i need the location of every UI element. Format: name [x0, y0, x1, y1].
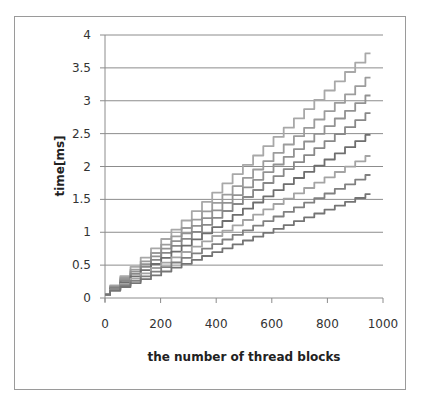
series-line [105, 78, 371, 295]
y-tick-label: 3.5 [72, 61, 91, 75]
x-tick-label: 400 [205, 317, 228, 331]
y-axis-ticks: 00.511.522.533.54 [72, 28, 91, 305]
series-line [105, 156, 371, 295]
series-line [105, 53, 371, 294]
line-chart: 00.511.522.533.54 02004006008001000 time… [0, 0, 432, 407]
series-line [105, 113, 371, 295]
x-tick-label: 0 [101, 317, 109, 331]
gridlines [100, 35, 383, 303]
y-tick-label: 1.5 [72, 192, 91, 206]
y-tick-label: 2 [83, 160, 91, 174]
x-axis-label: the number of thread blocks [147, 350, 340, 364]
y-tick-label: 4 [83, 28, 91, 42]
y-tick-label: 1 [83, 225, 91, 239]
y-tick-label: 0 [83, 291, 91, 305]
x-tick-label: 600 [260, 317, 283, 331]
series-line [105, 135, 371, 295]
x-tick-label: 1000 [368, 317, 399, 331]
series-line [105, 175, 371, 295]
series-line [105, 194, 371, 295]
y-tick-label: 3 [83, 94, 91, 108]
data-series [105, 53, 371, 294]
x-tick-label: 200 [149, 317, 172, 331]
y-axis-label: time[ms] [53, 135, 67, 196]
x-tick-label: 800 [316, 317, 339, 331]
y-tick-label: 2.5 [72, 127, 91, 141]
x-axis-ticks: 02004006008001000 [101, 317, 398, 331]
y-tick-label: 0.5 [72, 258, 91, 272]
